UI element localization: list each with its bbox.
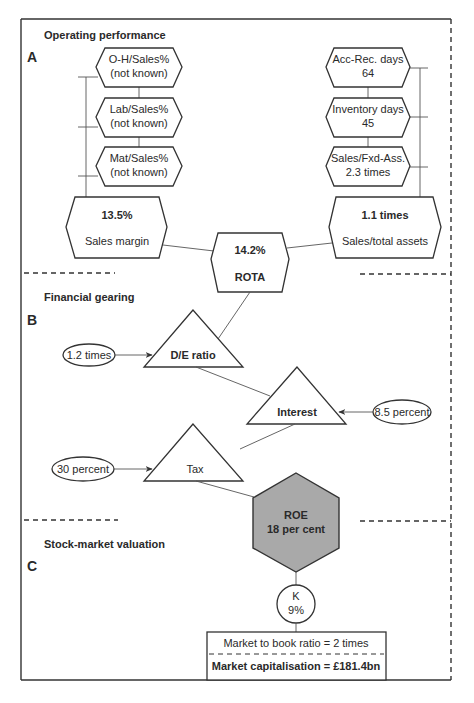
svg-text:Lab/Sales%: Lab/Sales% [110,103,169,115]
svg-text:2.3 times: 2.3 times [346,166,391,178]
driver-material-sales: Mat/Sales% (not known) [96,147,182,186]
rota-node: 14.2% ROTA [211,233,289,292]
svg-text:(not known): (not known) [110,166,167,178]
svg-text:1.1 times: 1.1 times [361,209,408,221]
svg-text:9%: 9% [288,604,304,616]
svg-text:D/E ratio: D/E ratio [170,349,216,361]
svg-text:(not known): (not known) [110,67,167,79]
tax-input: 30 percent [52,457,114,481]
svg-text:O-H/Sales%: O-H/Sales% [109,53,170,65]
section-title-operating: Operating performance [44,29,166,41]
connector-rota-de [218,292,250,339]
de-ratio-input: 1.2 times [63,344,115,366]
interest-node: Interest [247,367,346,424]
section-title-gearing: Financial gearing [44,291,134,303]
svg-text:8.5 percent: 8.5 percent [374,406,429,418]
driver-receivable-days: Acc-Rec. days 64 [326,48,410,87]
svg-text:ROE: ROE [284,509,308,521]
svg-text:Interest: Interest [277,406,317,418]
svg-text:Sales/Fxd-Ass.: Sales/Fxd-Ass. [331,152,405,164]
roe-node: ROE 18 per cent [253,473,339,572]
driver-fixed-asset-turnover: Sales/Fxd-Ass. 2.3 times [326,147,410,186]
connector-tax-roe [196,481,254,497]
svg-text:45: 45 [362,117,374,129]
sales-margin-node: 13.5% Sales margin [66,197,167,258]
svg-text:K: K [292,590,300,602]
section-letter-c: C [27,558,37,574]
valuation-box: Market to book ratio = 2 times Market ca… [207,632,386,680]
market-to-book-text: Market to book ratio = 2 times [223,637,369,649]
section-letter-a: A [27,49,37,65]
connector-interest-tax [240,424,295,449]
asset-turnover-node: 1.1 times Sales/total assets [329,197,441,258]
tax-node: Tax [144,424,243,481]
connector-turnover-rota [287,243,332,248]
svg-text:1.2 times: 1.2 times [67,349,112,361]
cost-of-equity-node: K 9% [277,585,315,623]
svg-text:Sales/total assets: Sales/total assets [342,235,429,247]
connector-margin-rota [163,245,214,251]
section-divider-bc [24,520,451,521]
svg-text:18 per cent: 18 per cent [267,523,325,535]
svg-text:ROTA: ROTA [235,271,265,283]
de-ratio-node: D/E ratio [144,310,243,367]
svg-text:30 percent: 30 percent [57,463,109,475]
driver-labour-sales: Lab/Sales% (not known) [96,98,182,137]
connector-de-interest [196,367,270,396]
market-cap-text: Market capitalisation = £181.4bn [212,660,381,672]
svg-text:(not known): (not known) [110,117,167,129]
financial-ratio-tree-diagram: Operating performance A Financial gearin… [0,0,474,703]
driver-inventory-days: Inventory days 45 [326,98,410,137]
svg-text:Sales margin: Sales margin [85,235,149,247]
driver-overhead-sales: O-H/Sales% (not known) [96,48,182,87]
svg-text:Inventory days: Inventory days [332,103,404,115]
svg-text:Acc-Rec. days: Acc-Rec. days [333,53,404,65]
svg-text:14.2%: 14.2% [234,244,265,256]
interest-input: 8.5 percent [373,400,431,424]
svg-text:64: 64 [362,67,374,79]
svg-text:13.5%: 13.5% [101,209,132,221]
section-letter-b: B [27,312,37,328]
svg-text:Mat/Sales%: Mat/Sales% [110,152,169,164]
section-title-valuation: Stock-market valuation [44,538,165,550]
svg-text:Tax: Tax [186,463,204,475]
